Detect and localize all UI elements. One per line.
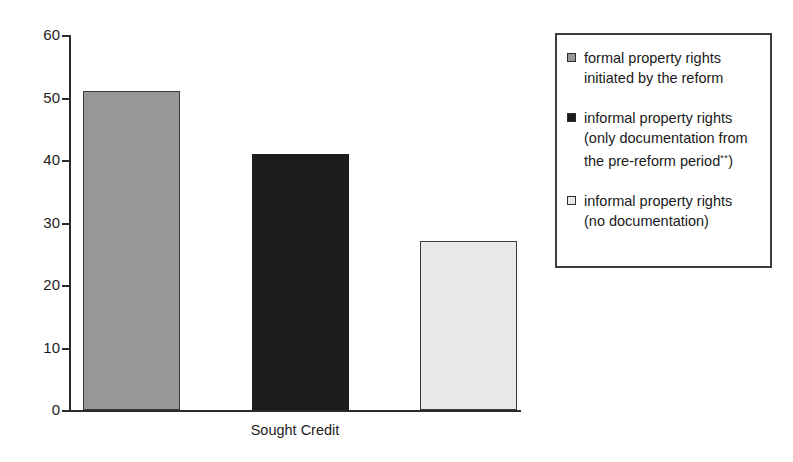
y-tick-mark-0 (62, 410, 71, 412)
y-tick-mark-30 (62, 223, 71, 225)
y-tick-mark-10 (62, 348, 71, 350)
legend-entry-3-line-2: (no documentation) (584, 211, 760, 231)
legend-entry-1-line-2: initiated by the reform (584, 68, 760, 88)
y-tick-label-10: 10 (43, 338, 60, 357)
y-tick-label-20: 20 (43, 275, 60, 294)
y-tick-mark-50 (62, 98, 71, 100)
legend-entry-2-line-1: informal property rights (584, 108, 760, 128)
y-tick-label-0: 0 (52, 400, 60, 419)
bar-series-2 (252, 154, 349, 410)
y-tick-label-60: 60 (43, 25, 60, 44)
bar-chart-figure: 60 50 40 30 20 10 0 Sought Credit (0, 0, 793, 462)
legend-entry-2-line-3-text: the pre-reform period (584, 153, 720, 169)
legend-entry-informal-no-documentation: informal property rights (no documentati… (567, 191, 760, 231)
legend-swatch-icon-2 (567, 113, 576, 122)
x-axis-title: Sought Credit (69, 422, 521, 438)
plot-area: 60 50 40 30 20 10 0 (69, 35, 521, 410)
legend-entry-formal-property-rights: formal property rights initiated by the … (567, 48, 760, 88)
y-tick-mark-20 (62, 285, 71, 287)
legend-swatch-icon-3 (567, 196, 576, 205)
y-tick-label-30: 30 (43, 213, 60, 232)
y-tick-label-50: 50 (43, 88, 60, 107)
legend-entry-2-line-2: (only documentation from (584, 128, 760, 148)
bar-series-3 (420, 241, 517, 410)
legend: formal property rights initiated by the … (555, 33, 772, 268)
legend-entry-informal-with-documentation: informal property rights (only documenta… (567, 108, 760, 171)
legend-swatch-icon-1 (567, 53, 576, 62)
y-tick-mark-40 (62, 160, 71, 162)
legend-entry-3-line-1: informal property rights (584, 191, 760, 211)
y-tick-mark-60 (62, 35, 71, 37)
legend-entry-2-line-3-tail: ) (728, 153, 733, 169)
legend-entry-1-line-1: formal property rights (584, 48, 760, 68)
y-tick-label-40: 40 (43, 150, 60, 169)
bar-series-1 (83, 91, 180, 410)
legend-entry-2-line-3: the pre-reform period**) (584, 148, 760, 171)
x-axis-line (69, 410, 521, 412)
